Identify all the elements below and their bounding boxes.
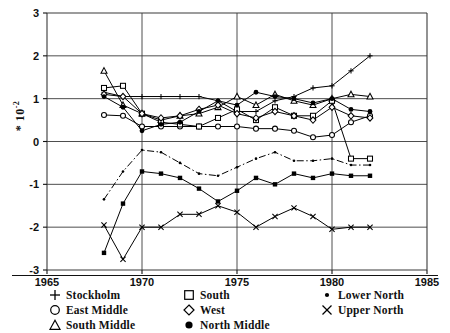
legend-item: Upper North bbox=[320, 303, 404, 317]
chart-figure: * 10-2 -3-2-1012319651970197519801985 St… bbox=[0, 0, 450, 333]
y-axis-tick-label: 1 bbox=[33, 93, 39, 105]
legend-item: South Middle bbox=[48, 318, 135, 332]
legend-item-label: South Middle bbox=[66, 319, 135, 331]
x-axis-tick-label: 1980 bbox=[320, 276, 344, 288]
legend-item: West bbox=[182, 303, 270, 317]
legend-item: South bbox=[182, 288, 270, 302]
legend-item: North Middle bbox=[182, 318, 270, 332]
y-axis-tick-label: 0 bbox=[33, 136, 39, 148]
y-axis-tick-label: 3 bbox=[33, 7, 39, 19]
legend-column: Lower NorthUpper North bbox=[320, 288, 404, 318]
legend-column: SouthWestNorth Middle bbox=[182, 288, 270, 333]
legend-item: Lower North bbox=[320, 288, 404, 302]
x-axis-tick-label: 1985 bbox=[415, 276, 439, 288]
y-axis-tick-label: -3 bbox=[29, 264, 39, 276]
circle-open-marker bbox=[48, 303, 62, 317]
y-axis-tick-label: -2 bbox=[29, 221, 39, 233]
dot-small-marker bbox=[320, 288, 334, 302]
square-open-marker bbox=[182, 288, 196, 302]
x-axis-tick-label: 1970 bbox=[130, 276, 154, 288]
triangle-open-marker bbox=[48, 318, 62, 332]
legend-item: East Middle bbox=[48, 303, 135, 317]
legend-item: Stockholm bbox=[48, 288, 135, 302]
legend-item-label: East Middle bbox=[66, 304, 128, 316]
legend-item-label: North Middle bbox=[200, 319, 270, 331]
diamond-open-marker bbox=[182, 303, 196, 317]
legend-item-label: South bbox=[200, 289, 230, 301]
plus-marker bbox=[48, 288, 62, 302]
x-axis-tick-label: 1975 bbox=[225, 276, 249, 288]
legend-item-label: Upper North bbox=[338, 304, 404, 316]
y-axis-tick-label: 2 bbox=[33, 50, 39, 62]
legend-item-label: Lower North bbox=[338, 289, 404, 301]
y-axis-tick-label: -1 bbox=[29, 178, 39, 190]
x-axis-tick-label: 1965 bbox=[35, 276, 59, 288]
legend-column: StockholmEast MiddleSouth Middle bbox=[48, 288, 135, 333]
cross-marker bbox=[320, 303, 334, 317]
legend-item-label: Stockholm bbox=[66, 289, 120, 301]
circle-filled-marker bbox=[182, 318, 196, 332]
legend: StockholmEast MiddleSouth MiddleSouthWes… bbox=[40, 288, 440, 333]
legend-item-label: West bbox=[200, 304, 225, 316]
plot-area: -3-2-1012319651970197519801985 bbox=[0, 0, 450, 290]
